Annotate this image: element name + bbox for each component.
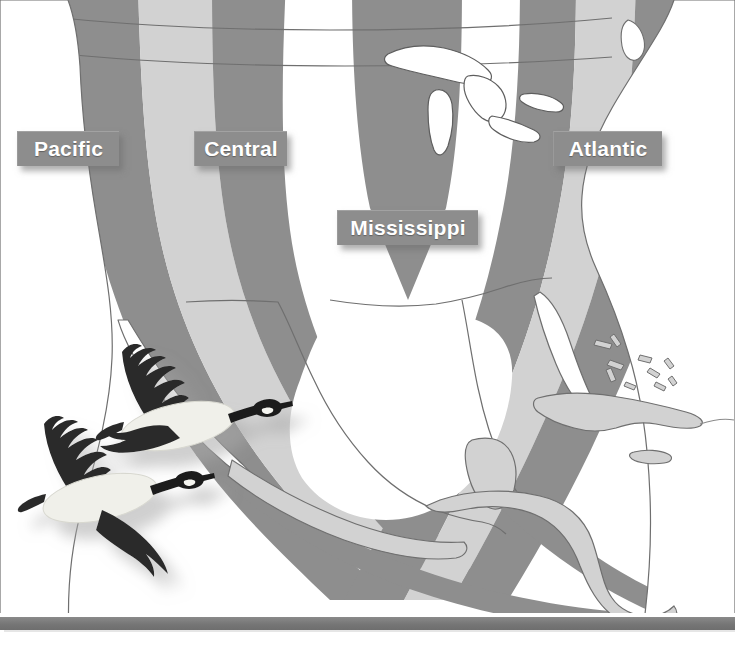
flyway-label-atlantic-text: Atlantic — [569, 137, 648, 161]
goose-lower-wing-lower — [96, 510, 168, 577]
flyway-map-figure: Pacific Central Mississippi Atlantic — [0, 0, 735, 650]
footer-rule-highlight — [4, 630, 735, 632]
flyway-label-pacific-text: Pacific — [34, 137, 103, 161]
north-america-flyway-map — [0, 0, 735, 650]
flyway-label-central: Central — [194, 131, 287, 166]
flyway-label-atlantic: Atlantic — [553, 131, 662, 166]
flyway-label-central-text: Central — [204, 137, 278, 161]
flyway-label-pacific: Pacific — [17, 131, 119, 166]
footer-rule — [0, 617, 735, 630]
lake-huron — [464, 75, 506, 121]
flyway-label-mississippi-text: Mississippi — [350, 216, 465, 240]
jamaica — [630, 450, 672, 464]
flyway-label-mississippi: Mississippi — [337, 210, 478, 245]
